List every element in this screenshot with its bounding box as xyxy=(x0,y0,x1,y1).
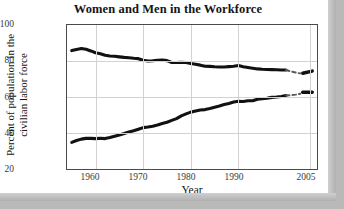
y-tick-20: 20 xyxy=(0,164,14,174)
gridline-h-80 xyxy=(67,61,317,62)
series-men-dashed xyxy=(286,70,300,73)
gridline-v-1970 xyxy=(143,25,144,169)
gridline-v-2005 xyxy=(310,25,311,169)
series-women-dashed xyxy=(286,94,300,96)
y-tick-80: 80 xyxy=(0,55,14,65)
x-tick-1970: 1970 xyxy=(118,172,158,182)
series-women-solid xyxy=(72,96,286,143)
y-tick-100: 100 xyxy=(0,19,14,29)
gridline-v-1990 xyxy=(238,25,239,169)
gridline-v-1980 xyxy=(191,25,192,169)
x-tick-1990: 1990 xyxy=(214,172,254,182)
plot-area xyxy=(66,24,318,170)
gridline-h-60 xyxy=(67,97,317,98)
card-shadow-bottom xyxy=(0,193,336,201)
gridline-h-40 xyxy=(67,133,317,134)
y-axis-label-line2: civilian labor force xyxy=(17,22,30,168)
series-men-solid xyxy=(72,49,286,70)
x-tick-1960: 1960 xyxy=(70,172,110,182)
y-tick-40: 40 xyxy=(0,128,14,138)
x-tick-2005: 2005 xyxy=(286,172,326,182)
chart-title: Women and Men in the Workforce xyxy=(0,2,336,17)
gridline-v-1960 xyxy=(96,25,97,169)
chart-card: Women and Men in the Workforce Percent o… xyxy=(0,0,336,201)
y-tick-60: 60 xyxy=(0,92,14,102)
card-shadow-right xyxy=(328,0,336,201)
x-tick-1980: 1980 xyxy=(166,172,206,182)
